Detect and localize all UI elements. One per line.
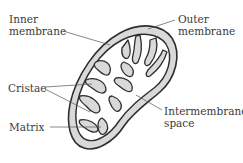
label-outer-membrane-line1: Outer: [178, 13, 235, 25]
label-intermembrane-space: Intermembrane space: [164, 105, 243, 129]
label-inner-membrane-line2: membrane: [9, 25, 66, 37]
label-cristae: Cristae: [8, 82, 47, 94]
label-outer-membrane-line2: membrane: [178, 25, 235, 37]
label-inner-membrane: Inner membrane: [9, 13, 66, 37]
label-intermembrane-line1: Intermembrane: [164, 105, 243, 117]
leader-inner-membrane: [63, 31, 110, 45]
leader-outer-membrane: [148, 20, 175, 29]
label-intermembrane-line2: space: [164, 117, 243, 129]
label-outer-membrane: Outer membrane: [178, 13, 235, 37]
label-inner-membrane-line1: Inner: [9, 13, 66, 25]
mitochondrion-diagram: Inner membrane Outer membrane Cristae Ma…: [0, 0, 243, 163]
label-matrix: Matrix: [9, 121, 45, 133]
